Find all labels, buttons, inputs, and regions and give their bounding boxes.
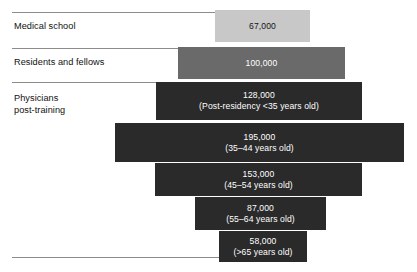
funnel-bar: 87,000(55–64 years old)	[195, 197, 326, 230]
funnel-bar: 195,000(35–44 years old)	[115, 123, 404, 162]
funnel-bar: 128,000(Post-residency <35 years old)	[156, 82, 362, 120]
bar-value-label: 87,000	[247, 203, 274, 214]
bar-value-label: 153,000	[243, 169, 275, 180]
bar-detail-label: (Post-residency <35 years old)	[199, 101, 319, 112]
bar-detail-label: (>65 years old)	[233, 247, 292, 258]
bar-value-label: 58,000	[250, 236, 277, 247]
category-label: Medical school	[14, 21, 75, 33]
category-divider-rule	[12, 257, 219, 258]
funnel-bar: 58,000(>65 years old)	[219, 231, 307, 262]
funnel-bar: 153,000(45–54 years old)	[155, 163, 362, 196]
bar-detail-label: (45–54 years old)	[224, 180, 293, 191]
bar-detail-label: (55–64 years old)	[226, 214, 295, 225]
bar-value-label: 128,000	[243, 90, 275, 101]
bar-value-label: 67,000	[249, 21, 276, 32]
category-divider-rule	[12, 82, 156, 83]
category-label: Residents and fellows	[14, 57, 104, 69]
bar-value-label: 100,000	[246, 58, 278, 69]
category-divider-rule	[12, 12, 215, 13]
category-label: Physicians post-training	[14, 93, 65, 116]
bar-detail-label: (35–44 years old)	[225, 143, 294, 154]
funnel-bar: 100,000	[178, 47, 345, 79]
category-divider-rule	[12, 48, 178, 49]
bar-value-label: 195,000	[244, 132, 276, 143]
physician-workforce-funnel-chart: Medical schoolResidents and fellowsPhysi…	[0, 0, 417, 272]
funnel-bar: 67,000	[215, 10, 310, 42]
